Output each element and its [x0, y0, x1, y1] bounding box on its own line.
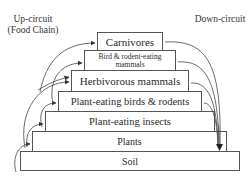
up-arrow-soil-to-plants [15, 144, 30, 172]
up-arrow-plants-to-insects [27, 124, 43, 147]
circuit-arrows [0, 0, 252, 183]
down-arrow-from-carnivores [165, 42, 220, 146]
up-arrow-insects-to-birds-rodents [41, 103, 56, 127]
down-arrow-from-plant-eating-birds-rodents [204, 103, 218, 146]
up-arrow-to-herbivorous-mammals [24, 82, 69, 148]
